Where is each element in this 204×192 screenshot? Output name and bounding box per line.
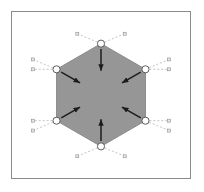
endpoint-marker-a bbox=[76, 32, 79, 35]
vertex-marker-v-top bbox=[97, 40, 104, 47]
vertex-marker-v-upper-right bbox=[142, 66, 149, 73]
figure-frame bbox=[11, 11, 191, 179]
vertex-marker-v-upper-left bbox=[53, 66, 60, 73]
endpoint-marker-j bbox=[168, 129, 171, 132]
endpoint-marker-h bbox=[31, 119, 34, 122]
endpoint-marker-f bbox=[168, 58, 171, 61]
endpoint-marker-g bbox=[31, 129, 34, 132]
endpoint-marker-d bbox=[31, 68, 34, 71]
endpoint-marker-k bbox=[76, 155, 79, 158]
endpoint-marker-c bbox=[31, 58, 34, 61]
vertex-marker-v-lower-left bbox=[53, 117, 60, 124]
endpoint-marker-b bbox=[123, 32, 126, 35]
geometric-diagram bbox=[12, 12, 190, 178]
endpoint-marker-l bbox=[123, 155, 126, 158]
endpoint-marker-e bbox=[168, 68, 171, 71]
endpoint-marker-i bbox=[168, 119, 171, 122]
vertex-marker-v-lower-right bbox=[142, 117, 149, 124]
vertex-marker-v-bottom bbox=[97, 143, 104, 150]
